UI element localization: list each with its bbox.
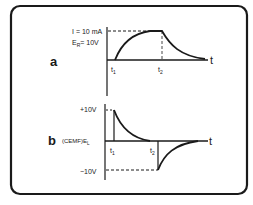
- panel-b-label: b: [48, 133, 56, 148]
- panel-b-negative-decay-curve: [158, 141, 198, 170]
- inductor-waveform-diagram: a I = 10 mA ER= 10V t t1 t2 b (CEMF)EL +…: [0, 0, 253, 205]
- panel-b-positive-decay-curve: [114, 110, 150, 141]
- diagram-frame: [11, 6, 247, 194]
- panel-b-time-axis-label: t: [209, 135, 212, 147]
- cemf-label: (CEMF)EL: [62, 138, 90, 146]
- current-label: I = 10 mA: [72, 28, 102, 35]
- panel-a-label: a: [50, 54, 58, 69]
- panel-a-t2-label: t2: [158, 66, 163, 75]
- panel-a-t1-label: t1: [111, 66, 116, 75]
- panel-a-time-axis-label: t: [210, 54, 213, 66]
- neg-level-label: −10V: [80, 168, 97, 175]
- panel-a-current-curve: [115, 31, 205, 60]
- pos-level-label: +10V: [80, 106, 97, 113]
- panel-a: a I = 10 mA ER= 10V t t1 t2: [50, 28, 213, 75]
- panel-b-t1-label: t1: [110, 147, 115, 156]
- voltage-label: ER= 10V: [72, 39, 99, 48]
- panel-b: b (CEMF)EL +10V −10V t t1 t2: [48, 106, 212, 175]
- panel-b-t2-label: t2: [150, 147, 155, 156]
